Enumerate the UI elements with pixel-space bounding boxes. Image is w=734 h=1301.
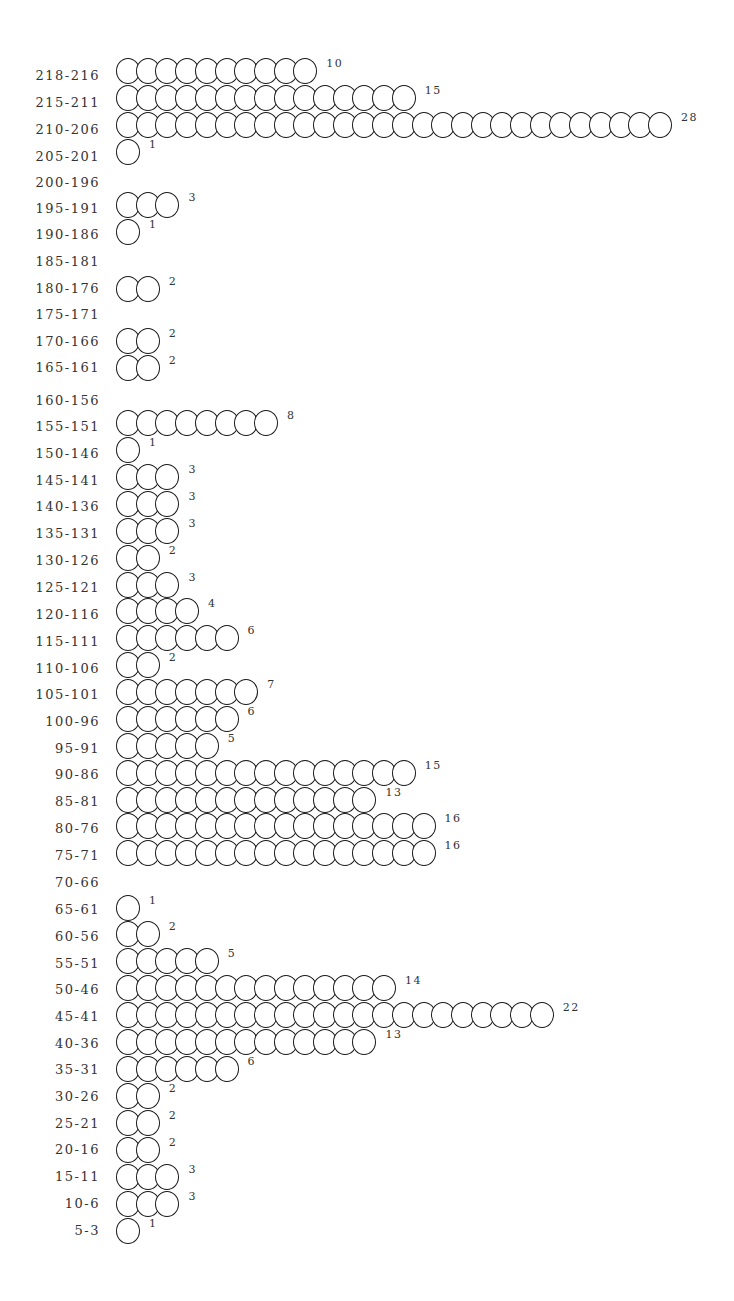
count-label: 3 xyxy=(188,1191,197,1203)
row-label: 20-16 xyxy=(10,1143,100,1157)
circle-marker xyxy=(372,975,396,1001)
circle-marker xyxy=(352,1029,376,1055)
count-label: 3 xyxy=(188,572,197,584)
row-label: 125-121 xyxy=(10,581,100,595)
row-label: 190-186 xyxy=(10,228,100,242)
count-label: 6 xyxy=(248,625,257,637)
row-label: 155-151 xyxy=(10,420,100,434)
circle-marker xyxy=(136,355,160,381)
count-label: 15 xyxy=(425,760,442,772)
circle-marker xyxy=(116,219,140,245)
circle-marker xyxy=(116,895,140,921)
count-label: 7 xyxy=(267,679,276,691)
circle-marker xyxy=(234,679,258,705)
circle-marker xyxy=(175,598,199,624)
row-label: 130-126 xyxy=(10,554,100,568)
count-label: 2 xyxy=(169,276,178,288)
circle-marker xyxy=(136,545,160,571)
row-label: 145-141 xyxy=(10,474,100,488)
circle-marker xyxy=(155,518,179,544)
count-label: 5 xyxy=(228,733,237,745)
count-label: 2 xyxy=(169,921,178,933)
count-label: 3 xyxy=(188,518,197,530)
count-label: 2 xyxy=(169,1137,178,1149)
count-label: 2 xyxy=(169,355,178,367)
row-label: 30-26 xyxy=(10,1090,100,1104)
row-label: 165-161 xyxy=(10,361,100,375)
circle-marker xyxy=(155,464,179,490)
count-label: 1 xyxy=(149,895,158,907)
row-label: 180-176 xyxy=(10,282,100,296)
circle-marker xyxy=(392,85,416,111)
row-label: 150-146 xyxy=(10,447,100,461)
row-label: 80-76 xyxy=(10,822,100,836)
circle-marker xyxy=(136,328,160,354)
count-label: 16 xyxy=(445,813,462,825)
circle-marker xyxy=(155,192,179,218)
count-label: 1 xyxy=(149,219,158,231)
count-label: 4 xyxy=(208,598,217,610)
circle-marker xyxy=(136,921,160,947)
count-label: 1 xyxy=(149,1218,158,1230)
count-label: 1 xyxy=(149,437,158,449)
circle-marker xyxy=(136,1083,160,1109)
row-label: 85-81 xyxy=(10,795,100,809)
count-label: 22 xyxy=(563,1002,580,1014)
circle-marker xyxy=(155,572,179,598)
circle-marker xyxy=(195,733,219,759)
row-label: 185-181 xyxy=(10,255,100,269)
count-label: 3 xyxy=(188,1164,197,1176)
row-label: 40-36 xyxy=(10,1037,100,1051)
circle-marker xyxy=(136,1137,160,1163)
circle-marker xyxy=(136,652,160,678)
row-label: 15-11 xyxy=(10,1170,100,1184)
row-label: 55-51 xyxy=(10,957,100,971)
row-label: 170-166 xyxy=(10,335,100,349)
count-label: 16 xyxy=(445,840,462,852)
circle-marker xyxy=(530,1002,554,1028)
count-label: 2 xyxy=(169,1110,178,1122)
row-label: 70-66 xyxy=(10,876,100,890)
circle-marker xyxy=(155,1191,179,1217)
count-label: 2 xyxy=(169,328,178,340)
row-label: 95-91 xyxy=(10,742,100,756)
row-label: 215-211 xyxy=(10,96,100,110)
pictogram-histogram: 218-21610215-21115210-20628205-2011200-1… xyxy=(0,0,734,1301)
circle-marker xyxy=(116,1218,140,1244)
count-label: 3 xyxy=(188,192,197,204)
row-label: 160-156 xyxy=(10,394,100,408)
circle-marker xyxy=(136,276,160,302)
count-label: 3 xyxy=(188,464,197,476)
circle-marker xyxy=(412,813,436,839)
count-label: 3 xyxy=(188,491,197,503)
row-label: 135-131 xyxy=(10,527,100,541)
row-label: 50-46 xyxy=(10,983,100,997)
circle-marker xyxy=(254,410,278,436)
row-label: 35-31 xyxy=(10,1063,100,1077)
count-label: 13 xyxy=(385,787,402,799)
circle-marker xyxy=(293,58,317,84)
row-label: 25-21 xyxy=(10,1117,100,1131)
count-label: 2 xyxy=(169,545,178,557)
circle-marker xyxy=(155,1164,179,1190)
row-label: 5-3 xyxy=(10,1224,100,1238)
circle-marker xyxy=(195,948,219,974)
row-label: 200-196 xyxy=(10,176,100,190)
row-label: 210-206 xyxy=(10,123,100,137)
row-label: 60-56 xyxy=(10,930,100,944)
count-label: 10 xyxy=(326,58,343,70)
row-label: 65-61 xyxy=(10,903,100,917)
row-label: 10-6 xyxy=(10,1197,100,1211)
circle-marker xyxy=(392,760,416,786)
circle-marker xyxy=(648,112,672,138)
count-label: 15 xyxy=(425,85,442,97)
row-label: 218-216 xyxy=(10,69,100,83)
row-label: 45-41 xyxy=(10,1010,100,1024)
circle-marker xyxy=(136,1110,160,1136)
count-label: 13 xyxy=(385,1029,402,1041)
count-label: 6 xyxy=(248,1056,257,1068)
row-label: 105-101 xyxy=(10,688,100,702)
row-label: 110-106 xyxy=(10,662,100,676)
circle-marker xyxy=(215,706,239,732)
count-label: 2 xyxy=(169,1083,178,1095)
